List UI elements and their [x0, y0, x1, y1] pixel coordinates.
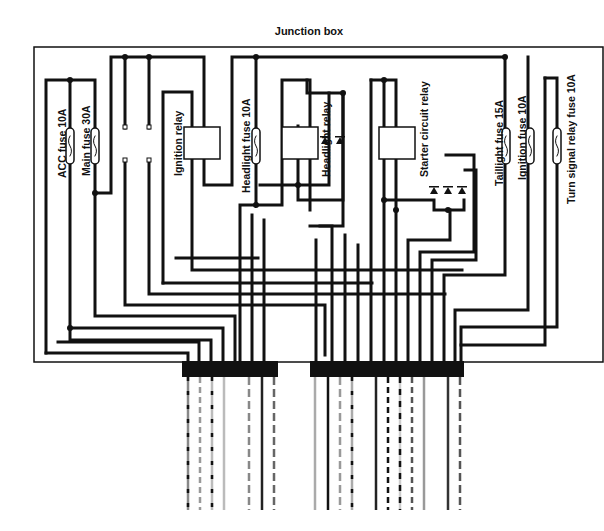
acc-fuse-label: ACC fuse 10A — [56, 109, 68, 178]
main-fuse-label: Main fuse 30A — [80, 105, 92, 176]
headlight-relay-box — [282, 127, 318, 159]
harness-right — [315, 377, 460, 510]
taillight-fuse-label: Taillight fuse 15A — [493, 100, 505, 186]
ignition-relay-label: Ignition relay — [172, 111, 184, 176]
connector-left — [182, 361, 278, 377]
junction-box-wiring-diagram — [0, 0, 604, 531]
starter-relay-label: Starter circuit relay — [418, 81, 430, 177]
headlight-relay-label: Headlight relay — [320, 102, 332, 177]
harness-left — [188, 377, 274, 510]
turn-signal-fuse-label: Turn signal relay fuse 10A — [565, 74, 577, 204]
headlight-fuse-label: Headlight fuse 10A — [240, 98, 252, 193]
ignition-fuse-label: Ignition fuse 10A — [516, 95, 528, 180]
connector-right — [310, 361, 464, 377]
ignition-relay-box — [184, 127, 220, 159]
starter-relay-box — [379, 127, 415, 159]
